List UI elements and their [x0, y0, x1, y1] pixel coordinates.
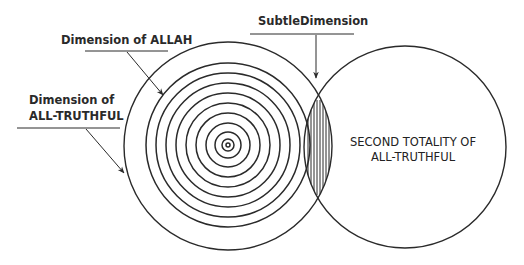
- label-dimension-of-all-truthful-line2: ALL-TRUTHFUL: [29, 109, 124, 123]
- label-dimension-of-all-truthful-line1: Dimension of: [29, 93, 114, 107]
- label-second-totality-line1: SECOND TOTALITY OF: [348, 135, 478, 150]
- label-subtle-dimension: SubtleDimension: [258, 14, 368, 28]
- label-second-totality-line2: ALL-TRUTHFUL: [348, 150, 478, 165]
- label-dimension-of-allah: Dimension of ALLAH: [61, 33, 192, 47]
- allah-concentric-rings: [146, 63, 310, 227]
